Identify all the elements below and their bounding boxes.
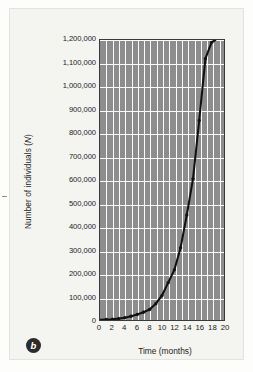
y-axis-tick-labels: 0100,000200,000300,000400,000500,000600,…: [32, 39, 96, 321]
x-axis-tick-labels: 02468101214161820: [99, 323, 225, 337]
panel-label-badge: b: [26, 338, 41, 353]
y-axis-tick-label: 1,200,000: [36, 35, 96, 43]
y-axis-tick-label: 1,100,000: [36, 59, 96, 67]
y-axis-tick-label: 1,000,000: [36, 82, 96, 90]
data-point: [185, 213, 188, 216]
y-axis-tick-label: 900,000: [36, 106, 96, 114]
data-point: [154, 302, 157, 305]
y-axis-tick-label: 800,000: [36, 129, 96, 137]
x-axis-title: Time (months): [99, 346, 231, 356]
growth-curve: [100, 40, 224, 320]
curve-path: [100, 40, 215, 320]
data-point: [148, 308, 151, 311]
plot-area: [99, 39, 225, 321]
y-axis-tick-label: 200,000: [36, 270, 96, 278]
data-point: [210, 41, 213, 44]
y-axis-tick-label: 500,000: [36, 200, 96, 208]
y-axis-tick-label: 300,000: [36, 247, 96, 255]
data-point: [198, 119, 201, 122]
data-point: [204, 57, 207, 60]
page-edge-mark: [2, 196, 7, 197]
figure-panel: b Number of individuals (N) Time (months…: [9, 8, 244, 360]
data-point: [123, 316, 126, 319]
data-point: [173, 268, 176, 271]
data-point: [167, 281, 170, 284]
data-point: [129, 315, 132, 318]
data-point: [136, 313, 139, 316]
data-point: [191, 177, 194, 180]
y-axis-tick-label: 400,000: [36, 223, 96, 231]
data-point: [160, 294, 163, 297]
data-point: [179, 246, 182, 249]
y-axis-tick-label: 0: [36, 317, 96, 325]
data-point: [142, 311, 145, 314]
data-point: [105, 318, 108, 320]
data-point: [111, 317, 114, 320]
y-axis-tick-label: 700,000: [36, 153, 96, 161]
x-axis-tick-label: 20: [217, 323, 233, 332]
y-axis-tick-label: 100,000: [36, 294, 96, 302]
figure-root: b Number of individuals (N) Time (months…: [0, 0, 253, 372]
y-axis-tick-label: 600,000: [36, 176, 96, 184]
